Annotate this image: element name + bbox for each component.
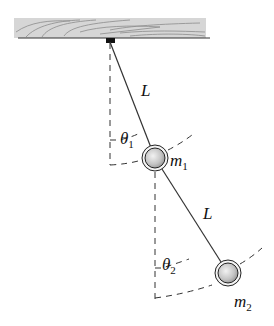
- length-lower-label: L: [203, 205, 212, 222]
- swing-arc-2-right: [240, 248, 262, 264]
- angle1-subscript: 1: [128, 138, 134, 150]
- swing-arc-1: [110, 159, 145, 165]
- mass2-symbol: m: [234, 292, 246, 311]
- mass1: [142, 145, 168, 171]
- mass1-symbol: m: [170, 151, 182, 170]
- mass2-subscript: 2: [246, 301, 252, 313]
- ceiling: [14, 18, 210, 38]
- mass2: [215, 260, 241, 286]
- swing-arc-1-right: [168, 135, 192, 150]
- mass2-label: m2: [234, 293, 252, 313]
- angle2-label: θ2: [162, 256, 176, 276]
- angle1-label: θ1: [120, 130, 134, 150]
- length-upper-label: L: [141, 82, 150, 99]
- mass1-subscript: 1: [182, 160, 188, 172]
- pendulum-diagram: [0, 0, 274, 326]
- swing-arc-2: [155, 285, 212, 298]
- mass1-label: m1: [170, 152, 188, 172]
- angle2-subscript: 2: [170, 264, 176, 276]
